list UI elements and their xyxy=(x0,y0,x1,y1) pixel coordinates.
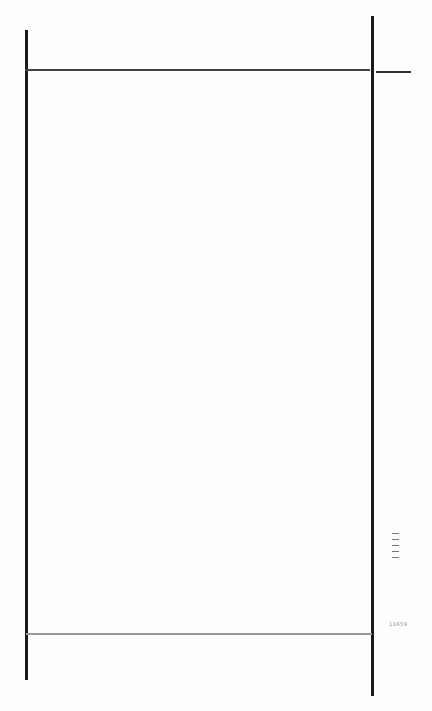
frame-left-rule xyxy=(25,30,28,680)
page-code-label: 11659 xyxy=(389,621,407,627)
frame-top-right-tick xyxy=(376,71,411,73)
frame-right-rule xyxy=(371,16,374,696)
scanned-page: 11659 xyxy=(0,0,432,711)
margin-bracket-mark xyxy=(392,528,400,562)
frame-top-rule xyxy=(25,69,370,71)
frame-bottom-rule xyxy=(26,633,372,635)
